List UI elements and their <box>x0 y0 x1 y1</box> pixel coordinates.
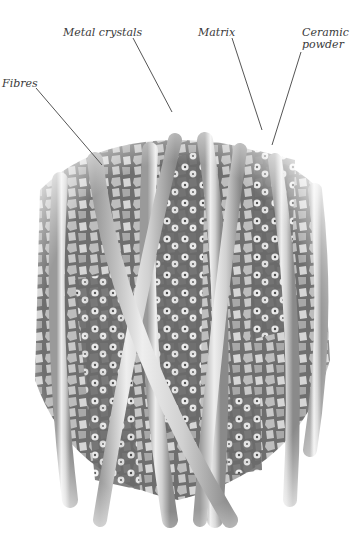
label-ceramic-line2: powder <box>302 39 349 51</box>
label-matrix: Matrix <box>198 27 235 39</box>
composite-body <box>0 100 356 555</box>
label-ceramic-powder: Ceramic powder <box>302 27 349 51</box>
label-metal-crystals: Metal crystals <box>63 27 142 39</box>
composite-illustration <box>0 0 356 555</box>
label-fibres: Fibres <box>2 78 38 90</box>
